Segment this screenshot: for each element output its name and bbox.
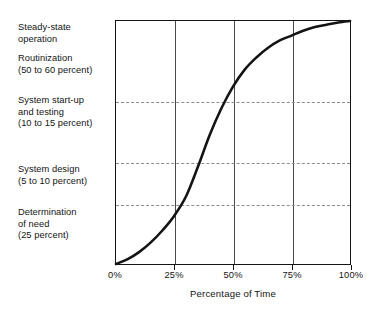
stage-label-system-start-up-and-testing: System start-up and testing (10 to 15 pe… <box>18 95 92 130</box>
x-axis-title: Percentage of Time <box>115 288 351 299</box>
stage-label-routinization: Routinization (50 to 60 percent) <box>18 53 92 76</box>
x-tick-label-100%: 100% <box>329 269 373 281</box>
plot-area <box>115 20 351 265</box>
x-tick-label-0%: 0% <box>93 269 137 281</box>
s-curve-figure: Steady-state operationRoutinization (50 … <box>0 0 376 321</box>
stage-label-system-design: System design (5 to 10 percent) <box>18 164 87 187</box>
stage-label-steady-state-operation: Steady-state operation <box>18 22 71 45</box>
bottom-caption <box>40 310 340 321</box>
curve-svg <box>116 21 350 264</box>
x-tick-label-75%: 75% <box>270 269 314 281</box>
stage-label-determination-of-need: Determination of need (25 percent) <box>18 207 77 242</box>
x-tick-label-25%: 25% <box>152 269 196 281</box>
x-tick-label-50%: 50% <box>211 269 255 281</box>
effort-curve <box>116 21 350 264</box>
